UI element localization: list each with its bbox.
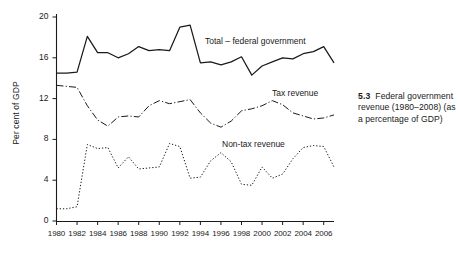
- y-axis-tick-label: 8: [27, 133, 49, 143]
- data-series-group: [57, 25, 335, 209]
- figure-caption: 5.3 Federal government revenue (1980–200…: [358, 91, 456, 125]
- series-label-tax-revenue: Tax revenue: [272, 88, 318, 98]
- figure-container: Per cent of GDP 048121620 19801982198419…: [0, 0, 458, 255]
- y-axis-tick-label: 12: [27, 93, 49, 103]
- figure-caption-number: 5.3: [358, 91, 371, 101]
- series-label-non-tax-revenue: Non-tax revenue: [222, 139, 285, 149]
- series-line-non-tax-revenue: [57, 143, 335, 208]
- series-label-total-federal-government: Total – federal government: [205, 36, 306, 46]
- x-axis-tick-label: 2006: [307, 229, 341, 238]
- y-axis-tick-label: 20: [27, 11, 49, 21]
- y-axis-tick-label: 4: [27, 174, 49, 184]
- series-line-total-federal-government: [57, 25, 335, 75]
- y-axis-tick-label: 16: [27, 52, 49, 62]
- y-axis-title: Per cent of GDP: [11, 53, 21, 173]
- y-axis-tick-label: 0: [27, 215, 49, 225]
- y-axis-ticks: [53, 17, 57, 221]
